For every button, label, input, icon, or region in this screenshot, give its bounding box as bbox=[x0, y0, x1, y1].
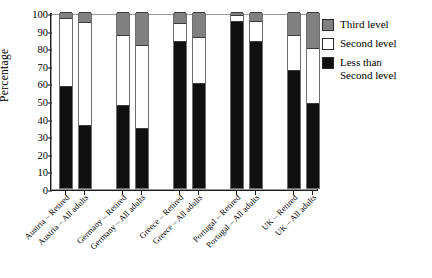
bar-uk-all-adults[interactable] bbox=[306, 13, 320, 189]
segment-less-than-second-level bbox=[60, 87, 72, 188]
segment-second-level bbox=[288, 35, 300, 71]
bar-portugal-retired[interactable] bbox=[230, 13, 244, 189]
y-tick-mark bbox=[48, 15, 52, 16]
y-tick-label: 60 bbox=[38, 80, 49, 91]
y-tick-label: 50 bbox=[38, 98, 49, 109]
segment-less-than-second-level bbox=[231, 22, 243, 188]
plot-area: 0102030405060708090100 bbox=[51, 14, 317, 190]
y-tick-mark bbox=[48, 173, 52, 174]
y-tick-label: 100 bbox=[32, 10, 48, 21]
y-axis-title: Percentage bbox=[0, 49, 10, 102]
y-tick-mark bbox=[48, 67, 52, 68]
legend-swatch-icon bbox=[322, 57, 334, 69]
segment-third-level bbox=[117, 12, 129, 35]
segment-third-level bbox=[136, 12, 148, 45]
legend-swatch-icon bbox=[322, 38, 334, 50]
bar-germany-retired[interactable] bbox=[116, 13, 130, 189]
segment-third-level bbox=[307, 12, 319, 48]
segment-second-level bbox=[60, 18, 72, 87]
segment-third-level bbox=[174, 12, 186, 23]
segment-second-level bbox=[136, 45, 148, 129]
segment-less-than-second-level bbox=[79, 126, 91, 188]
legend-item-label: Third level bbox=[340, 18, 389, 31]
legend-item-label: Less thanSecond level bbox=[340, 56, 397, 81]
bar-austria-retired[interactable] bbox=[59, 13, 73, 189]
legend-swatch-icon bbox=[322, 19, 334, 31]
segment-second-level bbox=[117, 35, 129, 106]
legend-item-label: Second level bbox=[340, 37, 397, 50]
segment-less-than-second-level bbox=[307, 104, 319, 188]
bar-austria-all-adults[interactable] bbox=[78, 13, 92, 189]
legend-item[interactable]: Less thanSecond level bbox=[322, 56, 430, 81]
bar-germany-all-adults[interactable] bbox=[135, 13, 149, 189]
segment-second-level bbox=[79, 22, 91, 127]
y-tick-mark bbox=[48, 155, 52, 156]
segment-second-level bbox=[231, 15, 243, 22]
y-tick-mark bbox=[48, 120, 52, 121]
y-tick-label: 20 bbox=[38, 151, 49, 162]
y-tick-mark bbox=[48, 191, 52, 192]
segment-third-level bbox=[288, 12, 300, 35]
y-tick-mark bbox=[48, 103, 52, 104]
bar-greece-retired[interactable] bbox=[173, 13, 187, 189]
y-tick-label: 80 bbox=[38, 45, 49, 56]
segment-second-level bbox=[250, 21, 262, 42]
bar-uk-retired[interactable] bbox=[287, 13, 301, 189]
y-tick-label: 30 bbox=[38, 133, 49, 144]
segment-third-level bbox=[231, 12, 243, 15]
segment-second-level bbox=[174, 23, 186, 42]
legend-item[interactable]: Third level bbox=[322, 18, 430, 31]
segment-less-than-second-level bbox=[250, 42, 262, 188]
segment-second-level bbox=[193, 37, 205, 85]
y-tick-label: 90 bbox=[38, 27, 49, 38]
segment-less-than-second-level bbox=[174, 42, 186, 188]
segment-less-than-second-level bbox=[117, 106, 129, 188]
segment-third-level bbox=[193, 12, 205, 37]
y-tick-label: 70 bbox=[38, 63, 49, 74]
chart-legend: Third levelSecond levelLess thanSecond l… bbox=[322, 18, 430, 87]
chart-root: Percentage 0102030405060708090100 Austri… bbox=[0, 0, 432, 278]
bar-portugal-all-adults[interactable] bbox=[249, 13, 263, 189]
segment-second-level bbox=[307, 48, 319, 104]
legend-item[interactable]: Second level bbox=[322, 37, 430, 50]
y-tick-label: 10 bbox=[38, 168, 49, 179]
y-tick-mark bbox=[48, 85, 52, 86]
bar-greece-all-adults[interactable] bbox=[192, 13, 206, 189]
segment-third-level bbox=[60, 12, 72, 18]
y-tick-mark bbox=[48, 138, 52, 139]
segment-third-level bbox=[79, 12, 91, 22]
segment-less-than-second-level bbox=[288, 71, 300, 188]
segment-less-than-second-level bbox=[193, 84, 205, 188]
segment-third-level bbox=[250, 12, 262, 21]
y-tick-mark bbox=[48, 32, 52, 33]
y-tick-label: 40 bbox=[38, 115, 49, 126]
segment-less-than-second-level bbox=[136, 129, 148, 188]
y-tick-mark bbox=[48, 50, 52, 51]
